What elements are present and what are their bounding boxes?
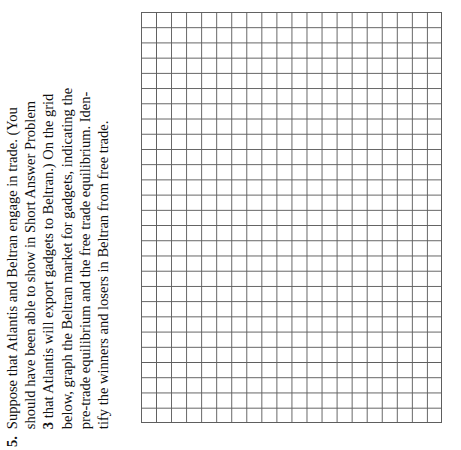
question-line-4: below, graph the Beltran market for gadg…	[58, 3, 76, 429]
question-line-6: tify the winners and losers in Beltran f…	[94, 3, 112, 429]
question-line-3: 3 that Atlantis will export gadgets to B…	[39, 3, 57, 429]
answer-graph-grid[interactable]	[141, 12, 442, 423]
question-text-block: 5. Suppose that Atlantis and Beltran eng…	[0, 0, 118, 450]
short-answer-problem-reference: 3	[40, 422, 56, 429]
question-line-5: pre-trade equilibrium and the free trade…	[76, 3, 94, 429]
question-number: 5.	[3, 436, 21, 447]
question-line-1: Suppose that Atlantis and Beltran engage…	[3, 3, 21, 429]
question-line-2: should have been able to show in Short A…	[21, 3, 39, 429]
rotated-text-wrapper: 5. Suppose that Atlantis and Beltran eng…	[3, 3, 115, 447]
question-body: Suppose that Atlantis and Beltran engage…	[3, 3, 112, 429]
question-line-3-text: that Atlantis will export gadgets to Bel…	[40, 94, 56, 419]
